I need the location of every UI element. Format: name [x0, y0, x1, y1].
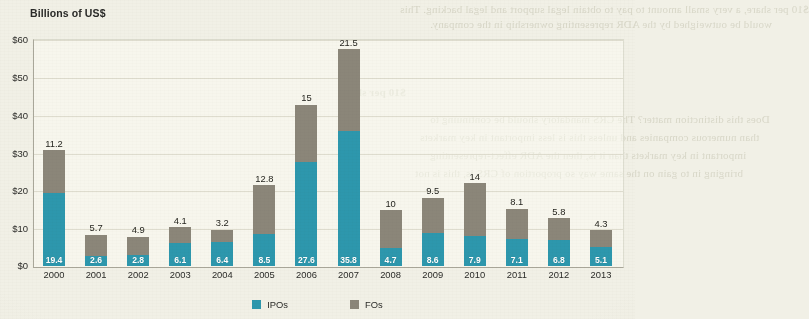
x-axis-tick: 2008: [370, 269, 412, 280]
y-axis-tick: $40: [0, 110, 28, 121]
legend-item-fos[interactable]: FOs: [350, 299, 383, 310]
x-axis-tick: 2001: [75, 269, 117, 280]
x-axis-tick: 2013: [580, 269, 622, 280]
x-axis-tick: 2004: [201, 269, 243, 280]
legend-label: FOs: [365, 299, 383, 310]
x-axis-tick: 2012: [538, 269, 580, 280]
x-axis-tick: 2000: [33, 269, 75, 280]
legend-swatch-icon: [252, 300, 261, 309]
x-axis-tick: 2009: [412, 269, 454, 280]
chart-title: Billions of US$: [30, 7, 106, 19]
y-axis-tick: $30: [0, 148, 28, 159]
bleed-line: $10 per share, a very small amount to pa…: [400, 3, 809, 15]
x-axis-tick: 2006: [285, 269, 327, 280]
y-axis-tick: $0: [0, 260, 28, 271]
legend-swatch-icon: [350, 300, 359, 309]
x-axis-tick: 2007: [328, 269, 370, 280]
legend-label: IPOs: [267, 299, 288, 310]
y-axis-tick: $20: [0, 185, 28, 196]
y-axis-tick: $60: [0, 34, 28, 45]
x-axis-tick: 2003: [159, 269, 201, 280]
x-axis-tick: 2011: [496, 269, 538, 280]
chart-legend: IPOsFOs: [0, 296, 635, 312]
bleed-line: would be outweighed by the ADR represent…: [430, 18, 772, 30]
y-axis: $60 $50 $40 $30 $20 $10 $0: [0, 39, 635, 266]
y-axis-tick: $10: [0, 223, 28, 234]
x-axis-tick: 2005: [243, 269, 285, 280]
x-axis-tick: 2010: [454, 269, 496, 280]
x-axis-tick: 2002: [117, 269, 159, 280]
legend-item-ipos[interactable]: IPOs: [252, 299, 288, 310]
x-axis: 2000200120022003200420052006200720082009…: [33, 269, 622, 285]
y-axis-tick: $50: [0, 72, 28, 83]
